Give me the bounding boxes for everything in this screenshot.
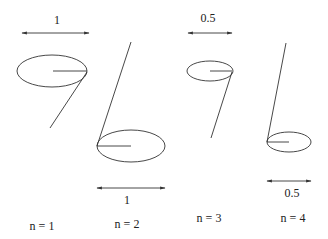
panel-n3: 0.5 [187,11,233,138]
vector-line [50,72,87,128]
panel-n1: 1 [17,13,89,128]
caption-n2: n = 2 [115,217,140,231]
scale-label: 1 [54,13,60,27]
panel-n2: 1 n = 1 n = 2 [30,42,165,233]
vector-line [211,72,232,138]
caption-n1: n = 1 [30,219,55,233]
caption-n3: n = 3 [197,211,222,225]
vector-line [267,43,286,142]
diagram-canvas: 1 1 n = 1 n = 2 0.5 0.5 n = 3 n = 4 [0,0,328,239]
caption-n4: n = 4 [281,211,306,225]
scale-label: 0.5 [285,186,300,200]
scale-label: 1 [124,193,130,207]
scale-label: 0.5 [201,11,216,25]
panel-n4: 0.5 n = 3 n = 4 [197,43,311,225]
